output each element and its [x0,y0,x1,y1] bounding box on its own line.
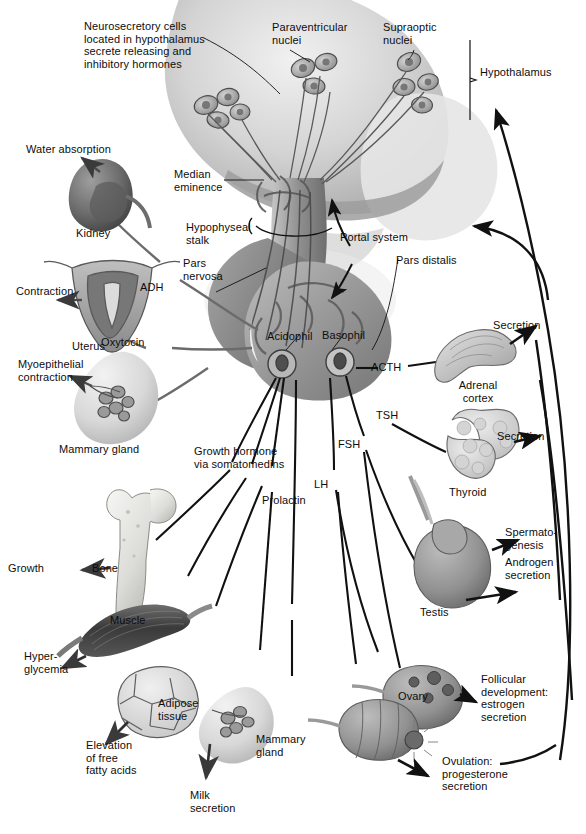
thyroid-secretion-label: Secretion [497,430,544,443]
spermatogenesis-label: Spermato- genesis [505,526,575,551]
hyperglycemia-label: Hyper- glycemia [24,650,84,675]
thyroid-label: Thyroid [449,486,486,499]
bone-label: Bone [92,562,118,575]
bone-artwork [107,489,176,614]
muscle-label: Muscle [110,614,145,627]
water-absorption-arrow [82,158,100,172]
follicular-development-arrow [460,694,476,702]
adrenal-cortex-artwork [435,330,516,383]
hypophyseal-stalk-bracket-icon [249,218,332,236]
androgen-secretion-arrow [466,592,516,600]
pituitary-artwork [208,176,392,401]
basophil-label: Basophil [322,329,365,342]
paraventricular-nuclei-label: Paraventricular nuclei [272,21,372,46]
kidney-artwork [69,159,150,232]
adrenal-secretion-label: Secretion [493,319,540,332]
pituitary-cells-artwork [268,348,354,378]
portal-system-arrows [332,200,352,298]
elevation-ffa-label: Elevation of free fatty acids [86,739,160,777]
growth-label: Growth [8,562,44,575]
ovulation-label: Ovulation: progesterone secretion [442,755,524,793]
acth-label: ACTH [371,361,401,374]
water-absorption-label: Water absorption [26,143,111,156]
adipose-tissue-label: Adipose tissue [158,697,214,722]
pars-nervosa-label: Pars nervosa [183,257,243,282]
neurosecretory-cells-label: Neurosecretory cells located in hypothal… [84,20,234,70]
oxytocin-label: Oxytocin [101,336,145,349]
testis-label: Testis [420,606,449,619]
adrenal-cortex-label: Adrenal cortex [452,379,504,404]
fsh-label: FSH [338,438,360,451]
follicular-development-label: Follicular development: estrogen secreti… [481,673,567,723]
portal-system-label: Portal system [340,231,408,244]
pars-distalis-label: Pars distalis [396,254,457,267]
ovary-label: Ovary [398,690,428,703]
growth-hormone-label: Growth hormone via somatomedins [194,445,294,470]
leader-lines [204,38,414,350]
ovulating-ovary-artwork [308,700,438,762]
acidophil-label: Acidophil [267,330,313,343]
milk-secretion-arrow [206,744,210,778]
supraoptic-nuclei-label: Supraoptic nuclei [383,21,463,46]
myoepithelial-contraction-label: Myoepithelial contraction [18,358,102,383]
milk-secretion-label: Milk secretion [190,789,252,814]
kidney-label: Kidney [76,227,110,240]
ovulation-arrow [398,760,428,776]
median-eminence-label: Median eminence [174,168,234,193]
mammary-gland-bottom-label: Mammary gland [256,733,318,758]
uterus-label: Uterus [72,340,105,353]
lh-label: LH [314,478,328,491]
thyroid-artwork [447,409,519,478]
androgen-secretion-label: Androgen secretion [505,556,577,581]
diagram-canvas: Neurosecretory cells located in hypothal… [0,0,586,834]
tsh-label: TSH [376,409,398,422]
hypothalamus-bracket-icon [470,40,476,120]
contraction-label: Contraction [16,285,73,298]
hypophyseal-stalk-label: Hypophyseal stalk [186,221,258,246]
prolactin-label: Prolactin [262,494,306,507]
mammary-gland-left-label: Mammary gland [59,443,139,456]
adh-label: ADH [140,281,164,294]
hypothalamus-label: Hypothalamus [480,66,552,79]
